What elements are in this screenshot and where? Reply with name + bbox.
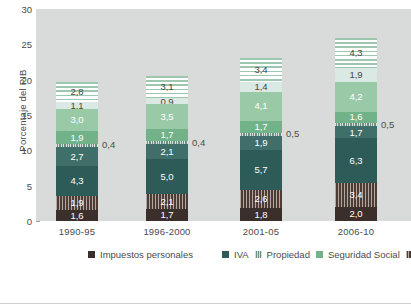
bar-segment-seguridad-social: 1,7 bbox=[146, 129, 188, 141]
x-tick-label-1996-2000: 1996-2000 bbox=[121, 226, 213, 237]
segment-value-label: 2,8 bbox=[70, 87, 83, 97]
y-tick-label: 30 bbox=[0, 4, 32, 15]
outside-value-label: 0,4 bbox=[192, 137, 205, 148]
segment-value-label: 1,7 bbox=[160, 130, 173, 140]
segment-value-label: 1,9 bbox=[70, 198, 83, 208]
legend-item-impuestos-personales[interactable]: Impuestos personales bbox=[88, 248, 216, 261]
segment-value-label: 3,0 bbox=[70, 115, 83, 125]
x-tick-label-2001-05: 2001-05 bbox=[215, 226, 307, 237]
legend-label: Impuestos personales bbox=[100, 249, 193, 260]
bar-segment-impuestos-personales: 1,7 bbox=[146, 209, 188, 221]
bar-segment-seguridad-social: 1,9 bbox=[56, 131, 98, 144]
bar-segment-otros: 1,4 bbox=[240, 82, 282, 92]
segment-value-label: 1,6 bbox=[70, 211, 83, 221]
segment-value-label: 1,9 bbox=[70, 133, 83, 143]
bar-segment-impuestos-personales: 2,0 bbox=[335, 207, 377, 221]
segment-value-label: 5,0 bbox=[160, 172, 173, 182]
segment-value-label: 1,7 bbox=[254, 122, 267, 132]
segment-value-label: 4,3 bbox=[70, 176, 83, 186]
legend-swatch-icon bbox=[88, 251, 95, 258]
bar-segment-propiedad bbox=[146, 141, 188, 144]
bar-segment-seguridad-social: 1,6 bbox=[335, 112, 377, 123]
bar-segment-propiedad bbox=[335, 123, 377, 127]
y-tick-label: 20 bbox=[0, 74, 32, 85]
segment-value-label: 2,6 bbox=[254, 194, 267, 204]
y-tick-label: 15 bbox=[0, 110, 32, 121]
y-tick-mark bbox=[36, 221, 40, 222]
legend-label: Propiedad bbox=[267, 249, 310, 260]
bar-segment-otros: 0,9 bbox=[146, 98, 188, 104]
bar-segment-impuestos-personales: 1,6 bbox=[56, 210, 98, 221]
segment-value-label: 1,9 bbox=[254, 138, 267, 148]
bar-segment-iva: 5,0 bbox=[146, 159, 188, 194]
legend-item-propiedad[interactable]: Propiedad bbox=[255, 248, 310, 261]
bar-segment-recursos-naturales: 3,1 bbox=[146, 76, 188, 98]
segment-value-label: 3,4 bbox=[349, 190, 362, 200]
bar-segment-recursos-naturales: 4,3 bbox=[335, 38, 377, 68]
segment-value-label: 1,6 bbox=[349, 112, 362, 122]
segment-value-label: 3,4 bbox=[254, 65, 267, 75]
y-tick-label: 5 bbox=[0, 180, 32, 191]
bar-1990-95: 1,61,94,32,71,93,01,12,8 bbox=[56, 9, 98, 221]
bar-segment-impuestos-personales: 1,8 bbox=[240, 208, 282, 221]
legend-swatch-icon bbox=[316, 251, 323, 258]
legend-swatch-icon bbox=[255, 251, 262, 258]
bar-segment-especificos: 4,2 bbox=[335, 82, 377, 112]
legend-item-seguridad-social[interactable]: Seguridad Social bbox=[316, 248, 400, 261]
bar-segment-propiedad bbox=[56, 144, 98, 147]
segment-value-label: 4,3 bbox=[349, 48, 362, 58]
bar-segment-impuestos-sobre-empresas: 2,1 bbox=[146, 194, 188, 209]
segment-value-label: 6,3 bbox=[349, 156, 362, 166]
segment-value-label: 2,1 bbox=[160, 197, 173, 207]
segment-value-label: 2,0 bbox=[349, 209, 362, 219]
bar-segment-impuestos-sobre-empresas: 1,9 bbox=[56, 196, 98, 209]
segment-value-label: 2,7 bbox=[70, 152, 83, 162]
bar-segment-impuestos-sobre-empresas: 3,4 bbox=[335, 183, 377, 207]
y-tick-label: 25 bbox=[0, 39, 32, 50]
bar-segment-otros: 1,1 bbox=[56, 102, 98, 110]
legend-item-iva[interactable]: IVA bbox=[222, 248, 249, 261]
bar-1996-2000: 1,72,15,02,11,73,50,93,1 bbox=[146, 9, 188, 221]
bar-segment-iva: 4,3 bbox=[56, 166, 98, 196]
bar-segment-recursos-naturales: 3,4 bbox=[240, 58, 282, 82]
segment-value-label: 3,1 bbox=[160, 82, 173, 92]
bar-segment-comercio: 2,7 bbox=[56, 147, 98, 166]
bar-segment-propiedad bbox=[240, 133, 282, 137]
chart-legend: Impuestos personalesIVAPropiedadSegurida… bbox=[88, 248, 408, 261]
outside-value-label: 0,4 bbox=[102, 139, 115, 150]
bar-segment-iva: 6,3 bbox=[335, 138, 377, 183]
bar-segment-especificos: 3,0 bbox=[56, 109, 98, 130]
segment-value-label: 5,7 bbox=[254, 165, 267, 175]
bar-segment-iva: 5,7 bbox=[240, 150, 282, 190]
y-axis-ticks: 051015202530 bbox=[0, 0, 36, 221]
segment-value-label: 3,5 bbox=[160, 112, 173, 122]
bar-segment-otros: 1,9 bbox=[335, 68, 377, 81]
segment-value-label: 1,1 bbox=[70, 102, 83, 110]
legend-swatch-icon bbox=[406, 251, 411, 258]
segment-value-label: 1,4 bbox=[254, 82, 267, 92]
x-tick-label-1990-95: 1990-95 bbox=[31, 226, 123, 237]
segment-value-label: 1,8 bbox=[254, 210, 267, 220]
y-tick-label: 10 bbox=[0, 145, 32, 156]
segment-value-label: 2,1 bbox=[160, 147, 173, 157]
bar-segment-seguridad-social: 1,7 bbox=[240, 121, 282, 133]
segment-value-label: 0,9 bbox=[160, 98, 173, 104]
segment-value-label: 4,1 bbox=[254, 101, 267, 111]
bar-segment-comercio: 1,7 bbox=[335, 126, 377, 138]
bar-segment-impuestos-sobre-empresas: 2,6 bbox=[240, 190, 282, 208]
bar-segment-especificos: 4,1 bbox=[240, 92, 282, 121]
stacked-bar-chart: Porcentaje del PIB 051015202530 0,41,61,… bbox=[0, 0, 411, 307]
segment-value-label: 1,7 bbox=[160, 210, 173, 220]
legend-label: IVA bbox=[234, 249, 249, 260]
legend-item-impuestos-sobre-empresas[interactable]: Impuestos sobre empresas bbox=[406, 248, 411, 261]
bar-2006-10: 2,03,46,31,71,64,21,94,3 bbox=[335, 9, 377, 221]
segment-value-label: 1,9 bbox=[349, 70, 362, 80]
bar-2001-05: 1,82,65,71,91,74,11,43,4 bbox=[240, 9, 282, 221]
bar-segment-especificos: 3,5 bbox=[146, 104, 188, 129]
x-tick-label-2006-10: 2006-10 bbox=[310, 226, 402, 237]
segment-value-label: 1,7 bbox=[349, 128, 362, 138]
bar-segment-comercio: 2,1 bbox=[146, 144, 188, 159]
bar-segment-comercio: 1,9 bbox=[240, 136, 282, 149]
legend-swatch-icon bbox=[222, 251, 229, 258]
legend-label: Seguridad Social bbox=[328, 249, 400, 260]
